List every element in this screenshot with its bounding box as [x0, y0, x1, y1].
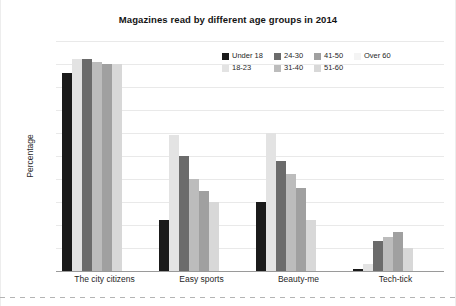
- bar[interactable]: [209, 202, 219, 271]
- bottom-dashed-separator: [0, 297, 456, 298]
- legend-item[interactable]: Over 60: [354, 52, 404, 60]
- bar[interactable]: [159, 220, 169, 271]
- legend-label: 18-23: [232, 64, 251, 72]
- bar[interactable]: [82, 59, 92, 271]
- bar-group: Beauty-me: [250, 41, 347, 271]
- bar-group: The city citizens: [56, 41, 153, 271]
- bar[interactable]: [363, 264, 373, 271]
- bar[interactable]: [92, 62, 102, 271]
- bar[interactable]: [102, 64, 112, 271]
- legend-item[interactable]: 41-50: [314, 52, 354, 60]
- bar[interactable]: [72, 59, 82, 271]
- legend-label: 51-60: [324, 64, 343, 72]
- legend-item[interactable]: 18-23: [222, 64, 274, 72]
- bar[interactable]: [266, 133, 276, 271]
- bar[interactable]: [256, 202, 266, 271]
- bar[interactable]: [373, 241, 383, 271]
- x-axis-category-label: Tech-tick: [347, 274, 444, 284]
- bar-groups: The city citizensEasy sportsBeauty-meTec…: [56, 41, 444, 271]
- bar[interactable]: [403, 248, 413, 271]
- legend-item[interactable]: 51-60: [314, 64, 354, 72]
- legend-label: Over 60: [364, 52, 391, 60]
- y-axis-title-text: Percentage: [25, 134, 35, 177]
- x-axis-category-label: The city citizens: [56, 274, 153, 284]
- legend-swatch-icon: [222, 53, 229, 60]
- bar-chart: Magazines read by different age groups i…: [0, 0, 456, 306]
- legend-label: 41-50: [324, 52, 343, 60]
- chart-legend: Under 1824-3041-50Over 60 18-2331-4051-6…: [222, 50, 432, 74]
- bar[interactable]: [306, 220, 316, 271]
- bar[interactable]: [276, 161, 286, 271]
- bar-group: Tech-tick: [347, 41, 444, 271]
- legend-swatch-icon: [354, 53, 361, 60]
- legend-item[interactable]: Under 18: [222, 52, 274, 60]
- bar[interactable]: [62, 73, 72, 271]
- x-axis-category-label: Beauty-me: [250, 274, 347, 284]
- bar[interactable]: [112, 64, 122, 271]
- bar[interactable]: [353, 269, 363, 271]
- legend-row-secondary: 18-2331-4051-60: [222, 62, 432, 74]
- bar[interactable]: [383, 237, 393, 272]
- plot-area: 0102030405060708090100 The city citizens…: [56, 41, 444, 271]
- legend-swatch-icon: [274, 65, 281, 72]
- bar[interactable]: [296, 188, 306, 271]
- legend-label: Under 18: [232, 52, 263, 60]
- legend-label: 24-30: [284, 52, 303, 60]
- bar-group: Easy sports: [153, 41, 250, 271]
- chart-title: Magazines read by different age groups i…: [0, 14, 456, 25]
- legend-item[interactable]: 31-40: [274, 64, 314, 72]
- legend-item[interactable]: 24-30: [274, 52, 314, 60]
- bar[interactable]: [286, 174, 296, 271]
- legend-swatch-icon: [314, 53, 321, 60]
- y-axis-title: Percentage: [8, 41, 51, 271]
- bar[interactable]: [189, 179, 199, 271]
- left-edge-rule: [0, 0, 1, 306]
- bar[interactable]: [179, 156, 189, 271]
- legend-swatch-icon: [222, 65, 229, 72]
- legend-swatch-icon: [314, 65, 321, 72]
- bar[interactable]: [169, 135, 179, 271]
- bar[interactable]: [393, 232, 403, 271]
- bar[interactable]: [199, 191, 209, 272]
- legend-row-primary: Under 1824-3041-50Over 60: [222, 50, 432, 62]
- legend-swatch-icon: [274, 53, 281, 60]
- x-axis-category-label: Easy sports: [153, 274, 250, 284]
- gridline-0: [56, 271, 444, 272]
- legend-label: 31-40: [284, 64, 303, 72]
